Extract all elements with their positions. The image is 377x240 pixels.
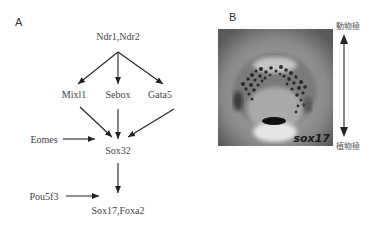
arrow-ndr-gata5 — [118, 52, 163, 84]
node-eomes: Eomes — [30, 134, 57, 145]
vegetal-pole-label: 植物極 — [336, 140, 360, 151]
arrow-mixl1-sox32 — [80, 107, 112, 137]
node-sox32: Sox32 — [105, 145, 131, 156]
embryo-photo: sox17 — [218, 29, 333, 146]
node-ndr1-ndr2: Ndr1,Ndr2 — [96, 31, 140, 42]
node-pou5f3: Pou5f3 — [30, 191, 59, 202]
embryo-image — [218, 29, 333, 146]
node-gata5: Gata5 — [148, 89, 172, 100]
arrow-down-icon — [340, 127, 348, 137]
arrow-ndr-mixl1 — [78, 52, 118, 84]
gene-label-sox17: sox17 — [293, 132, 330, 145]
node-sebox: Sebox — [106, 89, 131, 100]
arrow-up-icon — [340, 34, 348, 44]
animal-pole-label: 動物極 — [336, 20, 360, 31]
arrow-gata5-sox32 — [128, 109, 174, 137]
node-mixl1: Mixl1 — [62, 89, 86, 100]
node-sox17-foxa2: Sox17,Foxa2 — [91, 205, 144, 216]
